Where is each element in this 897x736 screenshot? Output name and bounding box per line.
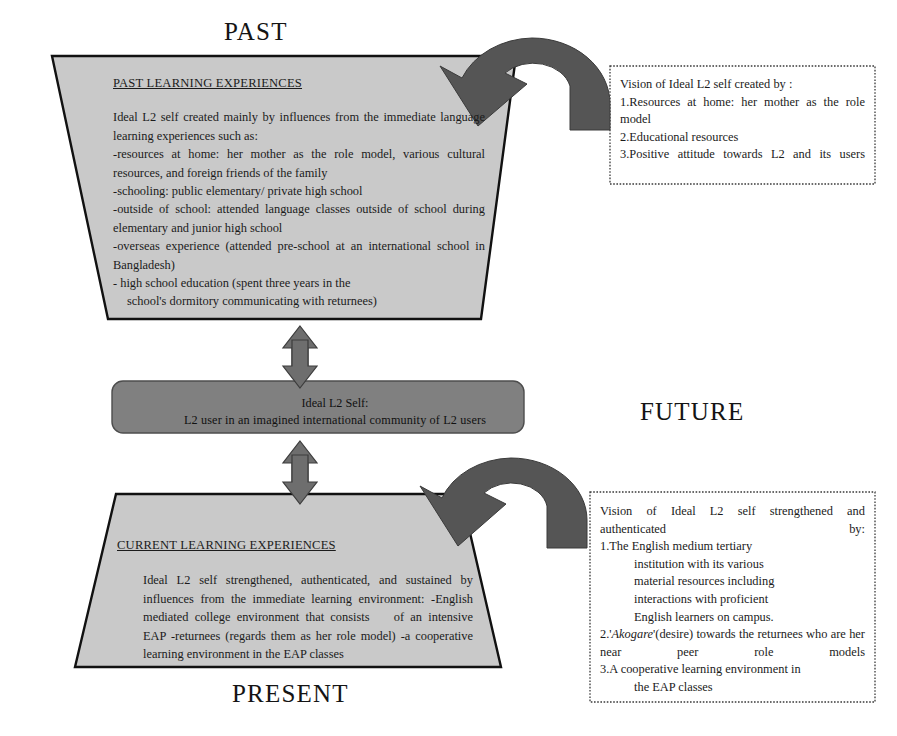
diagram-canvas: PAST FUTURE PRESENT PAST LEARNING EXPERI… [0,0,897,736]
past-line-2: -schooling: public elementary/ private h… [113,182,485,200]
ideal-l2-self-text: Ideal L2 Self: L2 user in an imagined in… [150,395,520,429]
past-learning-experiences-text: PAST LEARNING EXPERIENCES Ideal L2 self … [113,74,485,311]
current-learning-experiences-text: CURRENT LEARNING EXPERIENCES Ideal L2 se… [143,536,473,663]
past-line-1: -resources at home: her mother as the ro… [113,145,485,182]
vision-present-item3-line-1: 3.A cooperative learning environment in [600,661,865,679]
ideal-l2-self-line-1: Ideal L2 Self: [150,395,520,412]
past-learning-experiences-heading: PAST LEARNING EXPERIENCES [113,74,485,92]
vision-present-box-text: Vision of Ideal L2 self strengthened and… [600,503,865,697]
past-line-3: -outside of school: attended language cl… [113,200,485,237]
vision-past-box-text: Vision of Ideal L2 self created by : 1.R… [620,76,865,164]
vision-past-title: Vision of Ideal L2 self created by : [620,76,865,94]
era-label-present: PRESENT [232,680,349,708]
era-label-future: FUTURE [640,398,744,426]
vision-present-item-2: 2.'Akogare'(desire) towards the returnee… [600,626,865,661]
vision-present-item1-line-5: English learners on campus. [600,609,865,627]
past-line-5: - high school education (spent three yea… [113,274,485,292]
vision-present-item2-italic-term: Akogare [612,627,654,641]
present-line-2: influences from the immediate learning e… [143,592,425,606]
vision-present-item1-line-1: 1.The English medium tertiary [600,538,865,556]
past-line-6: school's dormitory communicating with re… [113,292,485,310]
vision-present-item1-line-2: institution with its various [600,556,865,574]
era-label-past: PAST [224,18,288,46]
vision-present-item2-prefix: 2.' [600,627,612,641]
present-line-5: -returnees (regards them as her role mod… [171,629,396,643]
vision-present-item3-line-2: the EAP classes [600,679,865,697]
current-learning-experiences-heading: CURRENT LEARNING EXPERIENCES [117,536,473,554]
past-line-4: -overseas experience (attended pre-schoo… [113,237,485,274]
vision-past-item-1: 1.Resources at home: her mother as the r… [620,94,865,129]
vision-past-item-3: 3.Positive attitude towards L2 and its u… [620,146,865,164]
past-paragraph: Ideal L2 self created mainly by influenc… [113,108,485,145]
ideal-l2-self-line-2: L2 user in an imagined international com… [150,412,520,429]
double-headed-vertical-arrow-top [283,326,317,388]
vision-present-item1-line-4: interactions with proficient [600,591,865,609]
present-line-1: Ideal L2 self strengthened, authenticate… [143,573,473,587]
vision-present-title: Vision of Ideal L2 self strengthened and… [600,503,865,538]
vision-present-item1-line-3: material resources including [600,573,865,591]
vision-past-item-2: 2.Educational resources [620,129,865,147]
